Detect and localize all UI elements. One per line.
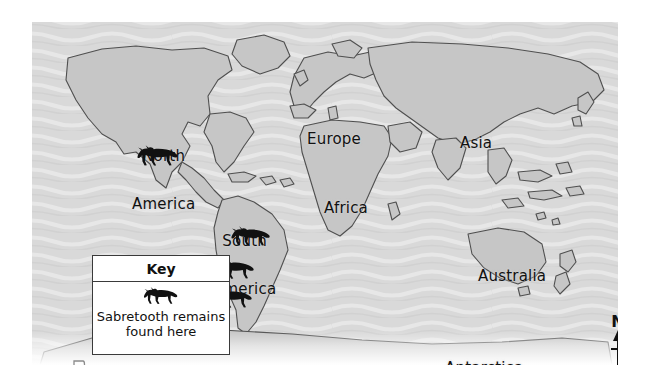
- map-key-label: Sabretooth remains found here: [93, 309, 229, 339]
- map-key-label-line1: Sabretooth remains: [97, 309, 225, 324]
- map-key: Key Sabretooth remains found here: [92, 255, 230, 355]
- sabretooth-icon[interactable]: [136, 144, 180, 168]
- pennant-flag-icon: [72, 360, 86, 365]
- map-key-title: Key: [146, 261, 175, 277]
- label-australia: Australia: [478, 269, 546, 284]
- compass-north-label: N: [611, 314, 618, 330]
- compass: N: [598, 314, 618, 365]
- label-asia: Asia: [460, 136, 492, 151]
- label-antarctica: Antarctica: [445, 361, 523, 365]
- map-key-header: Key: [93, 256, 229, 282]
- label-north-america-line2: America: [132, 196, 195, 212]
- label-north-america: North America: [132, 116, 195, 244]
- sabretooth-icon: [142, 286, 180, 306]
- north-arrow-icon: [606, 330, 618, 365]
- sabretooth-icon[interactable]: [230, 225, 272, 248]
- label-europe: Europe: [307, 132, 361, 147]
- world-map[interactable]: North America South America Europe Afric…: [32, 22, 618, 365]
- map-key-body: Sabretooth remains found here: [93, 282, 229, 355]
- label-africa: Africa: [324, 201, 368, 216]
- map-key-label-line2: found here: [126, 324, 197, 339]
- map-figure: North America South America Europe Afric…: [0, 0, 648, 391]
